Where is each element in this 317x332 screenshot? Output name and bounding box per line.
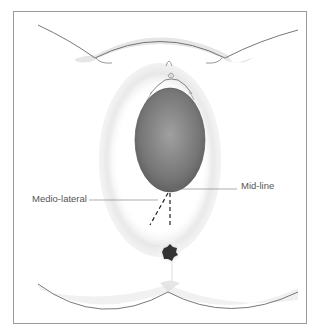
upper-thigh-outline	[38, 25, 298, 63]
label-medio-lateral: Medio-lateral	[32, 193, 87, 204]
label-mid-line: Mid-line	[241, 180, 274, 191]
fetal-head	[135, 88, 205, 192]
perineum-illustration	[0, 0, 317, 332]
lower-buttocks-outline	[38, 281, 298, 310]
anus	[157, 239, 183, 282]
